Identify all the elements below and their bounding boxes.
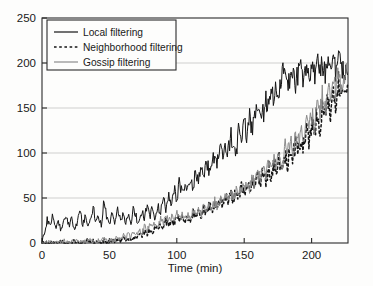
legend-label: Local filtering xyxy=(83,27,143,38)
y-tick-label: 150 xyxy=(17,102,36,114)
y-tick-label: 0 xyxy=(30,237,36,249)
x-axis-title: Time (min) xyxy=(168,262,223,274)
y-tick-label: 250 xyxy=(17,12,36,24)
x-tick-label: 200 xyxy=(302,249,321,261)
x-tick-label: 150 xyxy=(235,249,254,261)
legend-label: Neighborhood filtering xyxy=(83,42,183,53)
y-tick-label: 50 xyxy=(23,192,36,204)
y-tick-label: 100 xyxy=(17,147,36,159)
x-tick-label: 50 xyxy=(103,249,116,261)
y-tick-label: 200 xyxy=(17,57,36,69)
x-tick-label: 100 xyxy=(167,249,186,261)
line-chart: 050100150200250 050100150200 Time (min) … xyxy=(0,0,373,286)
x-tick-label: 0 xyxy=(39,249,45,261)
legend: Local filteringNeighborhood filteringGos… xyxy=(47,20,183,70)
figure-container: 050100150200250 050100150200 Time (min) … xyxy=(0,0,373,286)
legend-label: Gossip filtering xyxy=(83,57,151,68)
